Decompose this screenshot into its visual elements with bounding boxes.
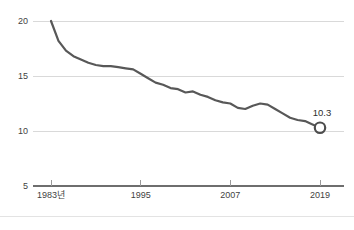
chart-canvas: 2015105 1983년199520072019 10.3 xyxy=(0,0,354,230)
endpoint-value-label: 10.3 xyxy=(313,107,332,118)
x-tick-label-1995: 1995 xyxy=(131,190,151,200)
x-tick-label-1983: 1983년 xyxy=(37,190,65,200)
line-chart-figure: 2015105 1983년199520072019 10.3 xyxy=(0,0,354,230)
x-tick-label-2007: 2007 xyxy=(220,190,240,200)
x-tick-label-2019: 2019 xyxy=(310,190,330,200)
x-axis-tick-labels: 1983년199520072019 xyxy=(37,190,330,200)
y-tick-label-20: 20 xyxy=(18,16,28,26)
series-line-path xyxy=(51,21,320,128)
endpoint-marker-circle[interactable] xyxy=(315,123,325,133)
footer-divider xyxy=(0,216,354,217)
y-tick-label-10: 10 xyxy=(18,126,28,136)
gridlines xyxy=(33,21,344,131)
y-axis-tick-labels: 2015105 xyxy=(18,16,28,191)
y-tick-label-15: 15 xyxy=(18,71,28,81)
x-axis xyxy=(33,180,344,186)
y-tick-label-5: 5 xyxy=(23,181,28,191)
